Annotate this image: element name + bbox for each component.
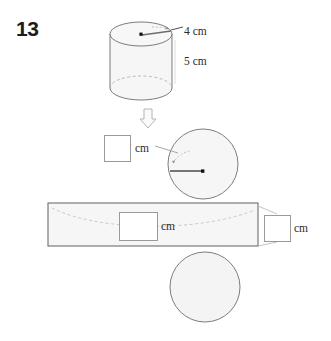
down-arrow-shape xyxy=(140,109,156,128)
right-answer-leader-top xyxy=(258,206,277,214)
cylinder-3d xyxy=(110,22,183,100)
down-block-arrow-icon xyxy=(140,109,156,128)
label-height-5cm: 5 cm xyxy=(184,56,207,68)
net-top-center-dot xyxy=(201,169,204,172)
worksheet-diagram: 13 xyxy=(0,0,331,341)
net-bottom-circle xyxy=(170,252,240,322)
net-top-circle xyxy=(155,129,238,199)
unit-label-middle: cm xyxy=(161,221,175,233)
unit-label-right: cm xyxy=(294,223,308,235)
right-answer-leader-bottom xyxy=(258,242,277,246)
answer-box-height[interactable] xyxy=(264,215,291,242)
label-radius-4cm: 4 cm xyxy=(184,26,207,38)
radius-label-leader xyxy=(171,27,183,30)
answer-box-radius[interactable] xyxy=(104,135,131,162)
unit-label-left: cm xyxy=(135,143,149,155)
answer-box-circumference[interactable] xyxy=(119,212,158,241)
cylinder-center-dot xyxy=(139,33,142,36)
net-top-circle-outline xyxy=(168,129,238,199)
geometry-layer xyxy=(0,0,331,341)
net-bottom-circle-outline xyxy=(170,252,240,322)
